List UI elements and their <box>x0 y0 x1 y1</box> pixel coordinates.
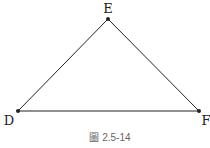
edge-ef <box>108 19 199 111</box>
label-d: D <box>4 113 14 128</box>
triangle-diagram: E D F 圖 2.5-14 <box>0 0 210 148</box>
vertex-f <box>197 109 201 113</box>
figure-caption: 圖 2.5-14 <box>89 132 131 143</box>
label-e: E <box>103 1 113 16</box>
vertex-e <box>106 17 110 21</box>
label-f: F <box>201 113 210 128</box>
edge-de <box>18 19 108 111</box>
vertex-d <box>16 109 20 113</box>
